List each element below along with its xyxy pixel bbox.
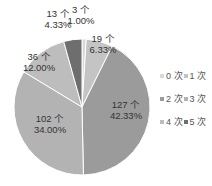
- legend: 0 次 1 次 2 次 3 次 4 次 5 次: [160, 64, 207, 133]
- legend-swatch: [160, 97, 164, 101]
- legend-swatch: [184, 120, 188, 124]
- slice-percent-label: 42.33%: [110, 110, 143, 121]
- legend-swatch: [160, 74, 164, 78]
- legend-item-2: 2 次: [160, 92, 183, 105]
- legend-label: 4 次: [166, 115, 183, 128]
- slice-count-label: 36 个: [27, 51, 50, 62]
- legend-label: 0 次: [166, 69, 183, 82]
- legend-label: 3 次: [190, 92, 207, 105]
- slice-percent-label: 6.33%: [90, 44, 117, 55]
- pie-chart: 3 个1.00%19 个6.33%127 个42.33%102 个34.00%3…: [0, 0, 160, 186]
- slice-percent-label: 12.00%: [23, 62, 56, 73]
- slice-count-label: 19 个: [91, 33, 114, 44]
- slice-count-label: 13 个: [46, 8, 69, 19]
- legend-item-5: 5 次: [184, 115, 207, 128]
- legend-label: 2 次: [166, 92, 183, 105]
- legend-swatch: [184, 97, 188, 101]
- legend-item-1: 1 次: [184, 69, 207, 82]
- legend-row: 4 次 5 次: [160, 110, 207, 133]
- legend-item-4: 4 次: [160, 115, 183, 128]
- legend-row: 0 次 1 次: [160, 64, 207, 87]
- legend-label: 1 次: [190, 69, 207, 82]
- slice-count-label: 3 个: [72, 4, 90, 15]
- legend-swatch: [160, 120, 164, 124]
- slice-percent-label: 1.00%: [68, 15, 95, 26]
- slice-percent-label: 34.00%: [34, 124, 67, 135]
- slice-count-label: 102 个: [36, 113, 65, 124]
- legend-item-3: 3 次: [184, 92, 207, 105]
- legend-item-0: 0 次: [160, 69, 183, 82]
- legend-swatch: [184, 74, 188, 78]
- legend-row: 2 次 3 次: [160, 87, 207, 110]
- legend-label: 5 次: [190, 115, 207, 128]
- slice-count-label: 127 个: [112, 99, 141, 110]
- slice-percent-label: 4.33%: [45, 19, 72, 30]
